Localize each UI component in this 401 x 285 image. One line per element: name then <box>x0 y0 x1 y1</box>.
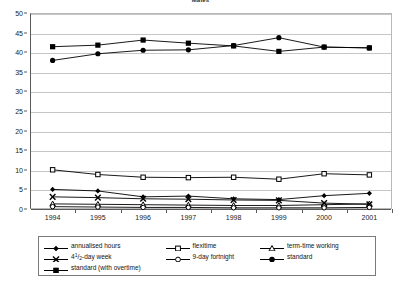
gridline <box>31 53 391 54</box>
plot-area <box>30 13 392 209</box>
y-tick-mark <box>24 209 27 210</box>
chart-legend: annualised hours flexitime term-time wor… <box>38 236 376 276</box>
marker-filled-circle-icon <box>269 257 275 262</box>
y-tick-mark <box>24 111 27 112</box>
legend-label: 41/2-day week <box>71 253 112 261</box>
x-tick-mark <box>392 209 393 213</box>
legend-label: annualised hours <box>71 242 121 250</box>
x-tick-label: 1994 <box>45 214 61 222</box>
y-tick-mark <box>24 189 27 190</box>
legend-item-nine-day-fortnight[interactable]: 9-day fortnight <box>165 251 259 262</box>
legend-marker-open-triangle-icon <box>259 240 285 251</box>
y-tick-mark <box>24 52 27 53</box>
y-tick-label: 35 <box>15 68 23 75</box>
chart-container: Males 05101520253035404550 1994199519961… <box>0 0 401 285</box>
legend-label: standard <box>287 253 312 261</box>
x-tick-label: 2001 <box>362 214 378 222</box>
gridline <box>31 171 391 172</box>
y-axis: 05101520253035404550 <box>0 13 27 209</box>
gridlines <box>31 14 391 208</box>
y-tick-mark <box>24 169 27 170</box>
legend-marker-filled-diamond-icon <box>43 240 69 251</box>
legend-row: 41/2-day week 9-day fortnight standard <box>43 251 371 262</box>
marker-filled-square-icon <box>53 268 59 273</box>
y-tick-mark <box>24 13 27 14</box>
x-axis: 19941995199619971998199920002001 <box>30 214 392 226</box>
legend-label: 9-day fortnight <box>193 253 235 261</box>
y-tick-mark <box>24 71 27 72</box>
gridline <box>31 92 391 93</box>
legend-item-flexitime[interactable]: flexitime <box>165 240 259 251</box>
legend-item-standard-with-overtime[interactable]: standard (with overtime) <box>43 262 195 273</box>
y-tick-label: 50 <box>15 10 23 17</box>
legend-row: standard (with overtime) <box>43 262 371 273</box>
legend-label: term-time working <box>287 242 339 250</box>
x-tick-label: 1997 <box>181 214 197 222</box>
y-tick-mark <box>24 91 27 92</box>
x-tick-mark <box>256 209 257 213</box>
y-tick-mark <box>24 32 27 33</box>
legend-label: flexitime <box>193 242 217 250</box>
chart-title: Males <box>0 0 401 3</box>
legend-label: standard (with overtime) <box>71 264 141 272</box>
x-tick-label: 2000 <box>316 214 332 222</box>
gridline <box>31 151 391 152</box>
x-tick-label: 1996 <box>135 214 151 222</box>
y-tick-label: 15 <box>15 147 23 154</box>
gridline <box>31 190 391 191</box>
x-tick-mark <box>211 209 212 213</box>
gridline <box>31 132 391 133</box>
y-tick-label: 30 <box>15 88 23 95</box>
legend-marker-open-square-icon <box>165 240 191 251</box>
gridline <box>31 34 391 35</box>
y-tick-label: 0 <box>19 206 23 213</box>
x-tick-mark <box>166 209 167 213</box>
legend-item-term-time-working[interactable]: term-time working <box>259 240 371 251</box>
y-tick-label: 25 <box>15 108 23 115</box>
x-tick-mark <box>121 209 122 213</box>
y-tick-mark <box>24 150 27 151</box>
legend-row: annualised hours flexitime term-time wor… <box>43 240 371 251</box>
legend-marker-filled-circle-icon <box>259 251 285 262</box>
x-tick-mark <box>347 209 348 213</box>
x-tick-label: 1999 <box>271 214 287 222</box>
legend-marker-open-circle-icon <box>165 251 191 262</box>
gridline <box>31 112 391 113</box>
y-tick-label: 45 <box>15 29 23 36</box>
x-tick-mark <box>75 209 76 213</box>
y-tick-label: 20 <box>15 127 23 134</box>
x-tick-label: 1998 <box>226 214 242 222</box>
legend-item-standard[interactable]: standard <box>259 251 371 262</box>
gridline <box>31 73 391 74</box>
legend-item-four-and-half-day-week[interactable]: 41/2-day week <box>43 251 165 262</box>
y-tick-label: 40 <box>15 49 23 56</box>
y-tick-label: 5 <box>19 186 23 193</box>
legend-item-annualised-hours[interactable]: annualised hours <box>43 240 165 251</box>
x-tick-mark <box>302 209 303 213</box>
gridline <box>31 14 391 15</box>
x-tick-label: 1995 <box>90 214 106 222</box>
legend-marker-cross-x-icon <box>43 251 69 262</box>
y-tick-label: 10 <box>15 166 23 173</box>
y-tick-mark <box>24 130 27 131</box>
legend-marker-filled-square-icon <box>43 262 69 273</box>
